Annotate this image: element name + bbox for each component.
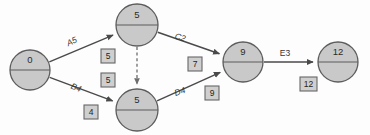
node-label-start: 0 (27, 54, 32, 65)
node-label-end: 12 (333, 46, 344, 57)
nodes-layer: 055912 (10, 4, 358, 131)
duration-box-value-box-e: 12 (304, 79, 314, 89)
duration-box-box-a: 5 (101, 49, 115, 63)
duration-box-box-b: 4 (84, 105, 98, 119)
node-label-join: 9 (240, 46, 245, 57)
duration-box-box-e: 12 (300, 77, 317, 91)
node-join: 9 (223, 42, 263, 82)
node-start: 0 (10, 50, 50, 90)
edge-label-b: B4 (70, 81, 84, 94)
duration-box-box-c: 7 (188, 57, 202, 71)
node-label-top-middle: 5 (134, 9, 139, 20)
edge-c (158, 32, 220, 54)
node-bottom-middle: 5 (116, 89, 158, 131)
duration-box-value-box-a: 5 (106, 51, 111, 61)
duration-box-value-box-b: 4 (89, 107, 94, 117)
node-end: 12 (318, 42, 358, 82)
edge-label-a: A5 (64, 35, 79, 49)
node-label-bottom-middle: 5 (134, 94, 139, 105)
duration-box-box-dummy: 5 (101, 73, 115, 87)
edge-label-d: D4 (173, 85, 187, 98)
network-diagram-canvas: 055912 5547912 A5B4C2D4E3 (0, 0, 370, 135)
duration-box-value-box-dummy: 5 (106, 75, 111, 85)
network-diagram-svg: 055912 5547912 A5B4C2D4E3 (0, 0, 370, 135)
edge-label-e: E3 (280, 48, 291, 58)
duration-box-value-box-d: 9 (210, 88, 215, 98)
node-top-middle: 5 (116, 4, 158, 46)
duration-box-value-box-c: 7 (193, 59, 198, 69)
duration-box-box-d: 9 (205, 86, 219, 100)
